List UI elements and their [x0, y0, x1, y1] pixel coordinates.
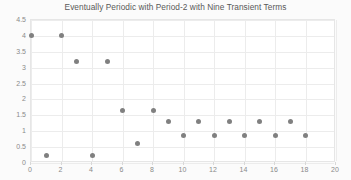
x-tick-label: 14	[240, 166, 248, 173]
y-tick-label: 2.5	[2, 79, 26, 86]
y-tick-label: 4	[2, 31, 26, 38]
y-tick-label: 1.5	[2, 111, 26, 118]
x-tick-label: 16	[270, 166, 278, 173]
x-tick-label: 12	[209, 166, 217, 173]
x-tick-mark	[213, 162, 214, 165]
x-tick-mark	[30, 162, 31, 165]
axis-labels-layer: 00.511.522.533.544.5 02468101214161820	[0, 0, 351, 180]
x-tick-label: 10	[179, 166, 187, 173]
x-tick-mark	[61, 162, 62, 165]
x-tick-mark	[91, 162, 92, 165]
x-tick-label: 18	[301, 166, 309, 173]
x-tick-mark	[152, 162, 153, 165]
y-tick-label: 2	[2, 95, 26, 102]
x-tick-mark	[335, 162, 336, 165]
x-tick-mark	[244, 162, 245, 165]
y-tick-label: 1	[2, 127, 26, 134]
x-tick-mark	[183, 162, 184, 165]
chart-figure: Eventually Periodic with Period-2 with N…	[0, 0, 351, 180]
y-tick-label: 0.5	[2, 143, 26, 150]
x-tick-label: 6	[120, 166, 124, 173]
x-tick-mark	[274, 162, 275, 165]
x-tick-mark	[122, 162, 123, 165]
y-tick-label: 3.5	[2, 47, 26, 54]
y-tick-label: 0	[2, 159, 26, 166]
y-tick-label: 3	[2, 63, 26, 70]
x-tick-label: 2	[59, 166, 63, 173]
y-tick-label: 4.5	[2, 16, 26, 23]
x-tick-label: 8	[150, 166, 154, 173]
x-tick-label: 4	[89, 166, 93, 173]
x-tick-label: 20	[331, 166, 339, 173]
x-tick-label: 0	[28, 166, 32, 173]
x-tick-mark	[305, 162, 306, 165]
